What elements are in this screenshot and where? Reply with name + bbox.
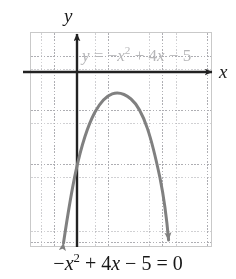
caption-term1-sign: − (53, 252, 64, 274)
caption-term1-var: x (65, 252, 74, 274)
caption-term2-coefficient: 4 (101, 252, 111, 274)
caption-equation: −x2 + 4x − 5 = 0 (0, 252, 236, 275)
equation-term1-sign: − (108, 46, 118, 65)
equation-term1-exponent: 2 (125, 44, 131, 56)
equation-term3-constant: 5 (183, 46, 192, 65)
caption-term2-var: x (111, 252, 120, 274)
equation-term2-sign: + (135, 46, 145, 65)
x-axis-label: x (219, 62, 227, 81)
equation-label: y = −x2 + 4x − 5 (82, 47, 191, 64)
equation-equals: = (94, 46, 104, 65)
equation-term1-var: x (117, 46, 125, 65)
caption-term3-constant: 5 (141, 252, 151, 274)
caption-equals: = (156, 252, 167, 274)
equation-term2-coefficient: 4 (148, 46, 157, 65)
equation-term3-sign: − (169, 46, 179, 65)
y-axis-label: y (64, 6, 72, 25)
parabola-graph-figure: y x y = −x2 + 4x − 5 −x2 + 4x − 5 = 0 (0, 0, 236, 279)
parabola-curve (64, 93, 169, 243)
equation-lhs: y (82, 46, 90, 65)
equation-term2-var: x (157, 46, 165, 65)
caption-rhs: 0 (173, 252, 183, 274)
caption-term2-sign: + (85, 252, 96, 274)
graph-vector-overlay (0, 0, 236, 279)
caption-term3-sign: − (125, 252, 136, 274)
caption-term1-exponent: 2 (74, 251, 80, 265)
